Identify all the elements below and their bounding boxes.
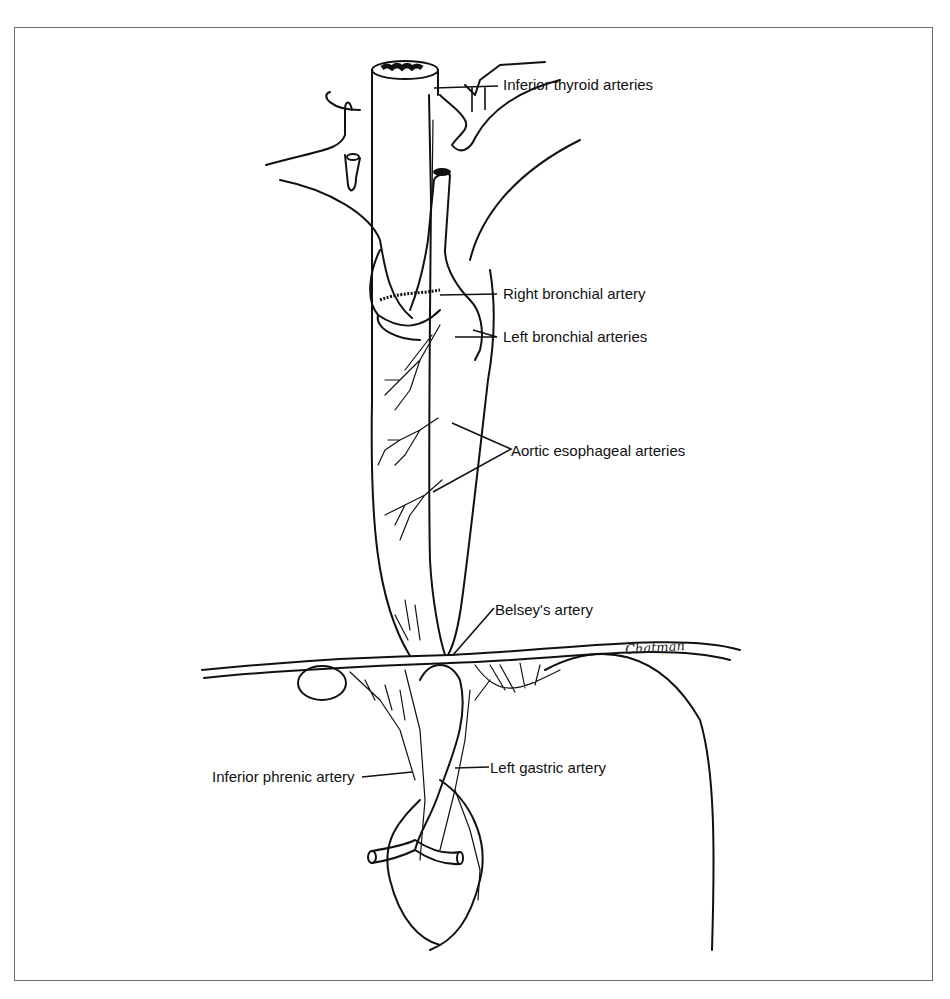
label-left-bronchial-arteries: Left bronchial arteries <box>503 328 647 345</box>
stomach <box>387 654 713 950</box>
phrenic-branches <box>350 670 490 900</box>
leader-lines <box>362 86 511 777</box>
great-vessels <box>266 62 580 360</box>
label-right-bronchial-artery: Right bronchial artery <box>503 285 646 302</box>
adrenal-oval <box>298 666 346 700</box>
aorta <box>370 250 493 655</box>
label-inferior-phrenic-artery: Inferior phrenic artery <box>212 768 355 785</box>
trachea <box>372 61 438 118</box>
celiac-trunk <box>368 840 463 864</box>
label-inferior-thyroid-arteries: Inferior thyroid arteries <box>503 76 653 93</box>
label-left-gastric-artery: Left gastric artery <box>490 759 606 776</box>
label-belseys-artery: Belsey's artery <box>495 601 593 618</box>
esophageal-arteries-illustration <box>0 0 950 999</box>
label-aortic-esophageal-arteries: Aortic esophageal arteries <box>511 442 685 459</box>
